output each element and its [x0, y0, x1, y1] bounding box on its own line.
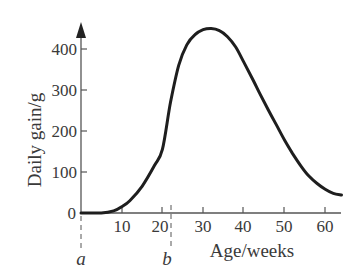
y-axis-arrow-icon: [76, 22, 86, 38]
y-tick-label: 100: [52, 163, 78, 182]
y-tick-label: 200: [52, 122, 78, 141]
x-tick-label: 30: [195, 217, 212, 236]
x-tick-label: 40: [235, 217, 252, 236]
x-tick-label: 50: [276, 217, 293, 236]
y-tick-label: 0: [68, 204, 77, 223]
x-axis-title: Age/weeks: [210, 240, 294, 261]
x-tick-label: 60: [317, 217, 334, 236]
x-tick-label: 10: [114, 217, 131, 236]
y-axis-title: Daily gain/g: [24, 92, 45, 187]
marker-a-label: a: [76, 248, 86, 269]
y-tick-label: 300: [52, 81, 78, 100]
x-ticks: [122, 207, 325, 213]
growth-chart: 0 100 200 300 400 10 20 30 40 50 60 Dail…: [0, 0, 362, 276]
y-ticks: [81, 49, 87, 172]
daily-gain-curve: [81, 28, 342, 213]
marker-b-label: b: [162, 248, 172, 269]
x-tick-label: 20: [152, 217, 169, 236]
y-tick-label: 400: [52, 40, 78, 59]
